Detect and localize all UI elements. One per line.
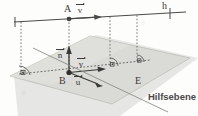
vector-label-v-top: v (76, 4, 84, 15)
right-angle-marker-left-dot (22, 72, 24, 74)
point-b-dot (66, 70, 71, 75)
vector-arrow-bar-v-plane (77, 58, 85, 59)
label-point-b: B (59, 76, 66, 86)
geometry-figure: A h B E Hilfsebene v n v u (0, 0, 198, 116)
vector-arrow-bar-n (56, 49, 64, 50)
vector-label-n: n (56, 49, 64, 60)
vector-letter-v-plane: v (77, 60, 85, 69)
vector-v-top-shaft (71, 17, 97, 19)
vector-arrow-bar-v-top (76, 4, 84, 5)
vector-arrow-bar-u (74, 76, 82, 77)
label-point-a: A (64, 4, 71, 14)
vector-letter-u: u (74, 78, 82, 87)
vector-letter-n: n (56, 51, 64, 60)
vector-label-v-plane: v (77, 58, 85, 69)
label-plane-e: E (135, 76, 141, 86)
vector-label-u: u (74, 76, 82, 87)
right-angle-marker-mid-dot (112, 64, 114, 66)
right-angle-marker-right-dot (138, 60, 140, 62)
label-helper-plane: Hilfsebene (148, 92, 196, 102)
label-line-h: h (162, 1, 167, 11)
vector-letter-v-top: v (76, 6, 84, 15)
vector-v-top-arrowhead (94, 14, 102, 19)
